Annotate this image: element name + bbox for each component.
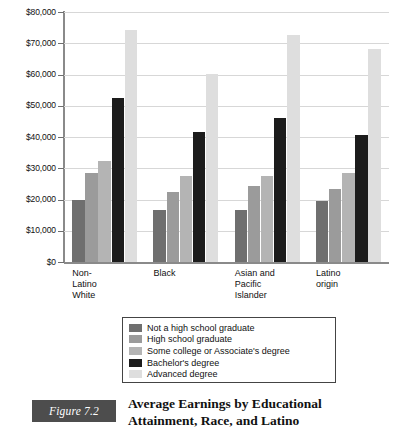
y-axis-tick bbox=[58, 106, 64, 107]
legend-swatch-icon bbox=[129, 324, 142, 332]
bar bbox=[85, 173, 97, 262]
y-axis-label: $70,000 bbox=[0, 39, 56, 48]
bar bbox=[112, 98, 124, 262]
bar bbox=[180, 176, 192, 262]
figure-title-line-1: Average Earnings by Educational bbox=[128, 396, 322, 411]
y-axis-label: $20,000 bbox=[0, 195, 56, 204]
legend-swatch-icon bbox=[129, 370, 142, 378]
bar bbox=[167, 192, 179, 262]
legend-item-label: High school graduate bbox=[147, 334, 232, 344]
bar bbox=[368, 49, 380, 262]
legend-swatch-icon bbox=[129, 359, 142, 367]
y-axis-tick bbox=[58, 43, 64, 44]
y-axis-tick bbox=[58, 262, 64, 263]
y-axis-label: $50,000 bbox=[0, 101, 56, 110]
y-axis-tick bbox=[58, 200, 64, 201]
legend-item: Some college or Associate's degree bbox=[129, 345, 335, 357]
legend-item: Advanced degree bbox=[129, 368, 335, 380]
figure-caption: Figure 7.2 Average Earnings by Education… bbox=[0, 393, 397, 436]
y-axis-tick bbox=[58, 231, 64, 232]
bar bbox=[274, 118, 286, 262]
legend-item: High school graduate bbox=[129, 334, 335, 346]
bar bbox=[316, 201, 328, 262]
y-axis-label: $60,000 bbox=[0, 70, 56, 79]
gridline bbox=[64, 262, 389, 264]
x-axis-group-label: Black bbox=[153, 268, 218, 279]
y-axis-label: $10,000 bbox=[0, 226, 56, 235]
chart-plot-area: $80,000$70,000$60,000$50,000$40,000$30,0… bbox=[0, 0, 397, 315]
gridline bbox=[64, 75, 389, 76]
legend-item: Bachelor's degree bbox=[129, 357, 335, 369]
bar bbox=[355, 135, 367, 263]
legend-item-label: Not a high school graduate bbox=[147, 323, 255, 333]
bar bbox=[287, 35, 299, 263]
y-axis-label: $40,000 bbox=[0, 133, 56, 142]
legend-item: Not a high school graduate bbox=[129, 322, 335, 334]
y-axis-label: $0 bbox=[0, 258, 56, 267]
bar bbox=[98, 161, 110, 262]
legend-item-label: Bachelor's degree bbox=[147, 358, 219, 368]
chart-legend: Not a high school graduateHigh school gr… bbox=[122, 317, 336, 383]
figure-number-badge: Figure 7.2 bbox=[32, 400, 116, 422]
figure-title-line-2: Attainment, Race, and Latino bbox=[128, 413, 299, 428]
bar bbox=[261, 176, 273, 262]
bar bbox=[125, 30, 137, 262]
bar bbox=[153, 210, 165, 262]
y-axis-label: $80,000 bbox=[0, 8, 56, 17]
figure-title: Average Earnings by Educational Attainme… bbox=[128, 395, 393, 429]
bar-chart-plot bbox=[64, 12, 389, 262]
y-axis-label: $30,000 bbox=[0, 164, 56, 173]
bar bbox=[206, 74, 218, 262]
legend-item-label: Some college or Associate's degree bbox=[147, 346, 290, 356]
gridline bbox=[64, 12, 389, 13]
figure-number-text: Figure 7.2 bbox=[49, 405, 99, 417]
y-axis-tick bbox=[58, 137, 64, 138]
x-axis-group-label: Latino origin bbox=[316, 268, 381, 290]
gridline bbox=[64, 43, 389, 44]
bar bbox=[329, 189, 341, 262]
bar bbox=[342, 173, 354, 262]
legend-item-label: Advanced degree bbox=[147, 369, 218, 379]
bar bbox=[193, 132, 205, 262]
y-axis-tick bbox=[58, 12, 64, 13]
legend-swatch-icon bbox=[129, 335, 142, 343]
y-axis-tick bbox=[58, 168, 64, 169]
bar bbox=[72, 200, 84, 262]
bar bbox=[248, 186, 260, 262]
legend-swatch-icon bbox=[129, 347, 142, 355]
y-axis-tick bbox=[58, 75, 64, 76]
figure-7-2: $80,000$70,000$60,000$50,000$40,000$30,0… bbox=[0, 0, 397, 436]
x-axis-group-label: Asian and Pacific Islander bbox=[235, 268, 300, 301]
x-axis-group-label: Non- Latino White bbox=[72, 268, 137, 301]
bar bbox=[235, 210, 247, 263]
